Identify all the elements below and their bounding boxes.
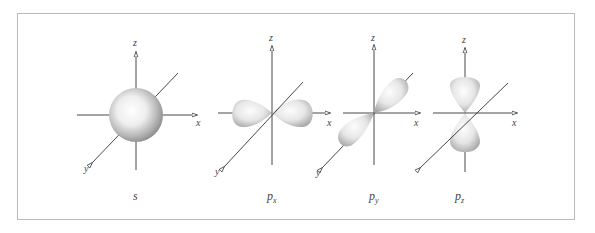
z-axis-label: z [132, 37, 137, 48]
orbital-label-py: py [369, 189, 379, 205]
pz-lobe-positive [450, 77, 480, 113]
s-orbital-panel: x z y [77, 37, 201, 174]
label-subscript: z [461, 196, 464, 205]
px-lobe-negative [232, 100, 272, 127]
orbital-label-px: px [267, 189, 277, 205]
label-subscript: x [273, 196, 277, 205]
x-axis-label: x [511, 117, 517, 128]
z-axis-label: z [268, 32, 273, 43]
pz-orbital-panel: x z [420, 34, 517, 172]
y-axis-label: y [315, 167, 321, 178]
x-axis-label: x [413, 117, 419, 128]
s-orbital-sphere [109, 88, 163, 142]
py-lobe-positive [374, 78, 408, 113]
x-axis-label: x [195, 117, 201, 128]
z-axis-label: z [461, 34, 466, 45]
z-axis-label: z [370, 32, 375, 43]
label-subscript: y [375, 196, 379, 205]
pz-lobe-negative [450, 113, 480, 152]
x-axis-label: x [326, 117, 332, 128]
y-axis-label: y [83, 163, 89, 174]
px-orbital-panel: x z y [214, 32, 332, 177]
orbital-diagram: x z y x z y x z y x z [0, 0, 595, 233]
y-axis-label: y [214, 166, 220, 177]
py-lobe-negative [338, 113, 374, 146]
orbital-label-pz: pz [455, 189, 464, 205]
px-lobe-positive [272, 100, 313, 127]
label-main: s [133, 189, 138, 203]
py-orbital-panel: x z y [315, 32, 420, 178]
orbital-label-s: s [133, 189, 138, 204]
